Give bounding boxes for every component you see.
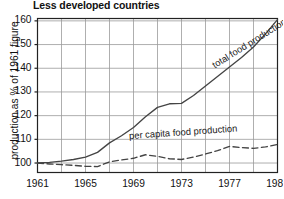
- chart-figure: Less developed countries production as %…: [0, 0, 283, 199]
- plot-area: [0, 0, 283, 199]
- y-tick-label: 100: [6, 157, 32, 168]
- y-tick-label: 160: [6, 14, 32, 25]
- y-tick-label: 140: [6, 62, 32, 73]
- x-tick-label: 1977: [210, 178, 250, 189]
- y-tick-label: 130: [6, 85, 32, 96]
- x-tick-label: 1965: [66, 178, 106, 189]
- x-tick-label: 1969: [114, 178, 154, 189]
- y-tick-label: 110: [6, 133, 32, 144]
- y-tick-label: 150: [6, 38, 32, 49]
- y-tick-label: 120: [6, 109, 32, 120]
- x-tick-label: 1973: [162, 178, 202, 189]
- x-tick-label: 1961: [18, 178, 58, 189]
- x-tick-label: 1981: [258, 178, 284, 189]
